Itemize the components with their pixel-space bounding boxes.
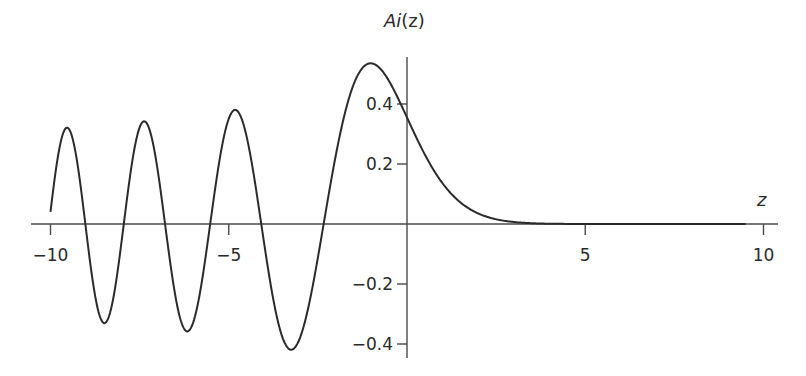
y-axis-title: Ai(z) [383,10,425,31]
x-tick-label: 10 [753,245,775,265]
x-ticks: −10−5510 [33,224,775,265]
y-tick-label: 0.2 [366,154,393,174]
y-tick-label: 0.4 [366,94,393,114]
airy-function-chart: −10−5510 0.40.2−0.2−0.4 z Ai(z) [0,0,806,376]
x-tick-label: 5 [580,245,591,265]
y-tick-label: −0.4 [352,334,393,354]
x-axis-title: z [756,189,767,210]
y-tick-label: −0.2 [352,274,393,294]
x-tick-label: −10 [33,245,69,265]
airy-curve [51,63,746,349]
x-tick-label: −5 [216,245,241,265]
